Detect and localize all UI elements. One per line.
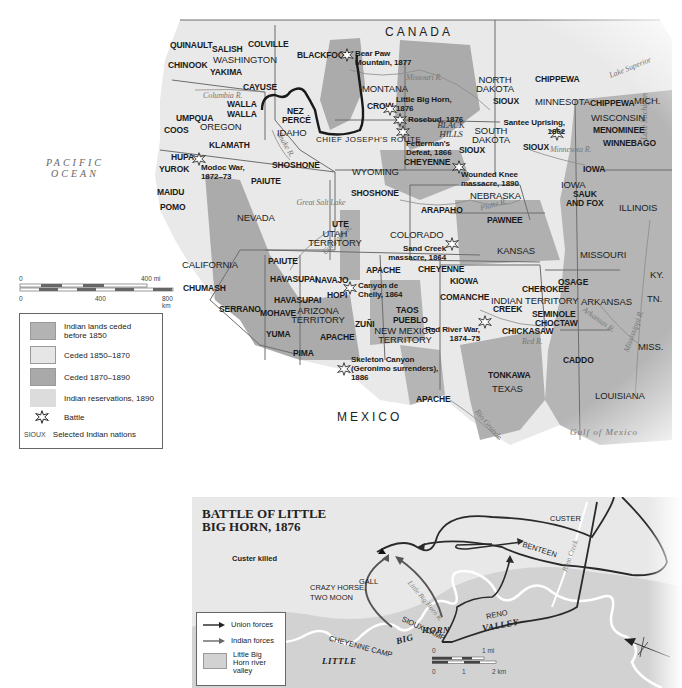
legend-label: Indian reservations, 1890 [64, 394, 154, 403]
nation-label: SHOSHONE [351, 189, 399, 198]
battle-star-icon [337, 362, 351, 376]
battle-label: Modoc War, 1872–73 [201, 163, 246, 181]
inset-scale-mi-start: 0 [432, 647, 436, 654]
inset-legend-union: Union forces [203, 621, 273, 629]
indian-arrow-icon [203, 638, 225, 644]
scale-mi-end: 400 mi [141, 275, 161, 282]
state-label-washington: WASHINGTON [213, 55, 277, 64]
nation-label: QUINAULT [170, 41, 212, 50]
inset-scale-km-end: 2 km [492, 668, 506, 675]
nation-label: KLAMATH [209, 141, 250, 150]
legend-swatch [30, 322, 56, 340]
nation-label: SALISH [212, 45, 243, 54]
battle-label: Little Big Horn, 1876 [396, 95, 456, 113]
water-label-gulf-of-mexico: Gulf of Mexico [570, 428, 638, 437]
battle-label: Fetterman's Defeat, 1866 [406, 139, 456, 157]
country-label-mexico: MEXICO [337, 413, 402, 422]
legend-item-ceded-before-1850: Indian lands ceded before 1850 [30, 322, 144, 340]
state-label-north-dakota: NORTH DAKOTA [470, 75, 520, 93]
state-label-iowa: IOWA [561, 180, 586, 189]
battle-star-icon [340, 48, 354, 62]
state-label-oregon: OREGON [200, 122, 242, 131]
battle-label: Sand Creek massacre, 1864 [388, 244, 446, 262]
nation-label: CHIPPEWA [590, 99, 635, 108]
state-label-missouri: MISSOURI [580, 250, 626, 259]
nation-label: PIMA [293, 349, 314, 358]
state-label-nebraska: NEBRASKA [470, 191, 521, 200]
nation-label: APACHE [320, 333, 355, 342]
state-label-montana: MONTANA [362, 84, 408, 93]
scale-km-start: 0 [19, 295, 23, 302]
nation-label: UMPQUA [176, 114, 213, 123]
nation-label: APACHE [416, 395, 451, 404]
inset-title-line2: BIG HORN, 1876 [202, 520, 326, 533]
legend-label: Indian lands ceded before 1850 [64, 322, 144, 340]
nation-label: CHEYENNE [404, 158, 450, 167]
nation-label: YUROK [159, 165, 189, 174]
nation-label: CHIPPEWA [535, 75, 580, 84]
inset-legend-indian: Indian forces [203, 637, 274, 645]
scale-bar: 0 400 mi 0 400 800 km [19, 275, 169, 305]
nation-label: COMANCHE [440, 293, 489, 302]
nation-label: CHUMASH [183, 284, 226, 293]
legend-label: Ceded 1870–1890 [64, 373, 130, 382]
state-label-wisconsin: WISCONSIN [591, 113, 645, 122]
nation-label: CHICKASAW [502, 327, 554, 336]
leader-label-crazy-horse: CRAZY HORSE, [310, 583, 366, 592]
legend-swatch [30, 368, 56, 386]
scale-bar-graphic [19, 283, 179, 293]
nation-label: WINNEBAGO [603, 139, 656, 148]
state-label-ky: KY. [650, 270, 664, 279]
legend-nation-sample: SIOUX [24, 430, 46, 439]
nation-label: AND FOX [566, 199, 604, 208]
union-arrow-icon [203, 622, 225, 628]
state-label-idaho: IDAHO [277, 128, 307, 137]
state-label-arizona-territory: ARIZONA TERRITORY [288, 306, 348, 324]
map-legend: Indian lands ceded before 1850 Ceded 185… [19, 313, 163, 449]
river-label-minnesota: Minnesota R. [550, 145, 591, 154]
nation-label: SERRANO [219, 305, 261, 314]
state-label-colorado: COLORADO [390, 230, 444, 239]
inset-scale-bar: 0 1 mi 0 1 2 km [432, 647, 512, 685]
battle-star-icon [343, 281, 357, 295]
scale-km-end: 800 km [162, 295, 173, 309]
inset-scale-km-mid: 1 [462, 668, 466, 675]
inset-title: BATTLE OF LITTLE BIG HORN, 1876 [202, 507, 326, 533]
nation-label: COLVILLE [248, 40, 289, 49]
inset-legend: Union forces Indian forces Little Big Ho… [196, 612, 286, 686]
nation-label: CREEK [493, 305, 522, 314]
country-label-canada: CANADA [385, 28, 453, 37]
state-label-minnesota: MINNESOTA [535, 97, 590, 106]
nation-label: CHEROKEE [522, 285, 569, 294]
scale-mi-start: 0 [19, 275, 23, 282]
nation-label: HAVASUPAI [270, 275, 317, 284]
nation-label: HAVASUPAI [274, 296, 321, 305]
nation-label: APACHE [366, 266, 401, 275]
nation-label: MOHAVE [260, 309, 296, 318]
nation-label: PERCÉ [282, 116, 311, 125]
nation-label: IOWA [583, 165, 605, 174]
inset-legend-valley: Little Big Horn river valley [203, 651, 266, 675]
state-label-illinois: ILLINOIS [619, 203, 657, 212]
legend-label: Ceded 1850–1870 [64, 351, 130, 360]
legend-item-nations: SIOUX Selected Indian nations [24, 430, 136, 439]
state-label-utah-territory: UTAH TERRITORY [305, 229, 365, 247]
state-label-miss: MISS. [638, 342, 663, 351]
scale-km-mid: 400 [95, 295, 106, 302]
nation-label: ZUÑI [355, 320, 374, 329]
state-label-kansas: KANSAS [497, 246, 535, 255]
state-label-mich: MICH. [634, 96, 660, 105]
nation-label: TONKAWA [488, 371, 531, 380]
state-label-nevada: NEVADA [237, 213, 275, 222]
battle-label: Red River War, 1874–75 [425, 325, 480, 343]
custer-killed-label: Custer killed [232, 554, 277, 563]
nation-label: PAIUTE [251, 177, 281, 186]
nation-label: SHOSHONE [272, 161, 320, 170]
battle-label: Skeleton Canyon (Geronimo surrenders), 1… [351, 355, 451, 382]
nation-label: SIOUX [493, 97, 519, 106]
nation-label: WALLA [227, 100, 257, 109]
legend-swatch [30, 346, 56, 364]
legend-item-battle: Battle [30, 410, 84, 424]
nation-label: PAWNEE [487, 216, 523, 225]
legend-item-reservations-1890: Indian reservations, 1890 [30, 389, 154, 407]
